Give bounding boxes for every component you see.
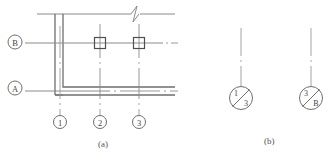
technical-drawing: B A 1 2 3	[0, 0, 331, 160]
grid-bubble-1[interactable]: 1	[54, 116, 67, 129]
grid-bubble-a[interactable]: A	[8, 81, 22, 95]
grid-bubble-1-label: 1	[58, 118, 62, 128]
plan-view-a: B A 1 2 3	[8, 6, 178, 129]
grid-bubble-2[interactable]: 2	[94, 116, 107, 129]
grid-bubble-a-label: A	[12, 84, 19, 94]
detail-mark-2-top-label: 3	[304, 89, 308, 98]
caption-a: (a)	[98, 139, 108, 149]
detail-mark-2[interactable]: 3 B	[300, 87, 323, 110]
grid-bubble-b-label: B	[12, 38, 18, 48]
caption-b: (b)	[264, 136, 275, 146]
detail-mark-1-bottom-label: 3	[244, 99, 248, 108]
wall-inner-face	[63, 14, 175, 87]
grid-bubble-3-label: 3	[137, 118, 141, 128]
detail-mark-1-top-label: 1	[234, 89, 238, 98]
break-line-symbol	[131, 6, 139, 22]
grid-bubble-3[interactable]: 3	[133, 116, 146, 129]
detail-mark-2-bottom-label: B	[313, 99, 318, 108]
detail-mark-1[interactable]: 1 3	[230, 87, 253, 110]
detail-marks-b: 1 3 3 B	[230, 28, 323, 110]
figure-canvas: B A 1 2 3	[0, 0, 331, 160]
grid-bubble-2-label: 2	[98, 118, 102, 128]
top-wall-edge	[37, 6, 175, 22]
grid-bubble-b[interactable]: B	[8, 35, 22, 49]
wall-outer-face	[55, 14, 175, 95]
